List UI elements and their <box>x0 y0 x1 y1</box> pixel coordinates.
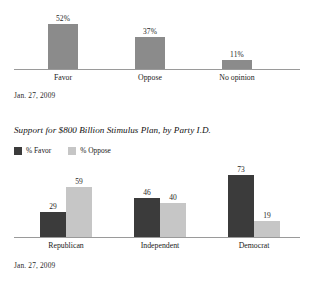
bar-democrat-oppose <box>254 221 280 237</box>
top-bar-chart: 52% 37% 11% Favor Oppose No opinion <box>14 0 300 70</box>
legend-label-favor: % Favor <box>26 146 51 155</box>
bar-favor <box>48 24 78 69</box>
bar-oppose <box>135 37 165 69</box>
bar-independent-favor <box>134 198 160 237</box>
legend-label-oppose: % Oppose <box>80 146 111 155</box>
bottom-chart-bars: 29 59 46 40 73 19 <box>14 174 300 237</box>
group-label-independent: Independent <box>125 241 195 251</box>
bar-republican-favor <box>40 212 66 237</box>
legend-item-oppose: % Oppose <box>68 146 111 155</box>
bar-value-favor: 52% <box>43 14 83 23</box>
bottom-grouped-bar-chart: 29 59 46 40 73 19 Republican Independent… <box>14 174 300 248</box>
category-label-oppose: Oppose <box>120 73 180 83</box>
bar-democrat-favor <box>228 175 254 237</box>
bar-value-republican-oppose: 59 <box>59 177 99 186</box>
legend-item-favor: % Favor <box>14 146 51 155</box>
bottom-chart-date-note: Jan. 27, 2009 <box>14 261 55 271</box>
category-label-no-opinion: No opinion <box>207 73 267 83</box>
bar-value-no-opinion: 11% <box>217 50 257 59</box>
legend-swatch-oppose-icon <box>68 147 76 155</box>
group-label-republican: Republican <box>31 241 101 251</box>
bar-value-independent-oppose: 40 <box>153 193 193 202</box>
bar-republican-oppose <box>66 187 92 237</box>
top-chart-date-note: Jan. 27, 2009 <box>14 91 55 101</box>
category-label-favor: Favor <box>33 73 93 83</box>
bottom-chart-axis <box>14 237 300 238</box>
poll-figure: 52% 37% 11% Favor Oppose No opinion Jan.… <box>0 0 311 284</box>
bottom-chart-legend: % Favor % Oppose <box>14 146 111 155</box>
bar-no-opinion <box>222 60 252 69</box>
group-label-democrat: Democrat <box>219 241 289 251</box>
bottom-chart-title: Support for $800 Billion Stimulus Plan, … <box>14 124 211 136</box>
top-chart-axis <box>14 69 300 70</box>
top-chart-bars: 52% 37% 11% <box>14 0 300 69</box>
bar-value-democrat-favor: 73 <box>221 165 261 174</box>
legend-swatch-favor-icon <box>14 147 22 155</box>
bar-independent-oppose <box>160 203 186 237</box>
bar-value-democrat-oppose: 19 <box>247 211 287 220</box>
bar-value-oppose: 37% <box>130 27 170 36</box>
